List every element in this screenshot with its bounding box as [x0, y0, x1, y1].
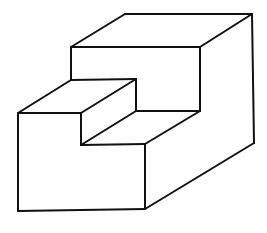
edge-lower-top-front	[81, 144, 145, 145]
edge-step-top-back	[71, 79, 136, 80]
stepped-block-diagram	[0, 0, 267, 233]
background	[0, 0, 267, 233]
